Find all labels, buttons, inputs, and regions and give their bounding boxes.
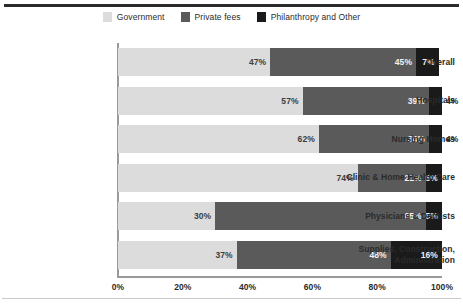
bar-segment-value-label: 37% (215, 250, 236, 260)
legend-swatch-icon (181, 12, 190, 22)
top-divider-rule (4, 4, 459, 7)
legend-item[interactable]: Philanthropy and Other (257, 12, 361, 22)
x-axis-tick-label: 100% (422, 282, 462, 292)
bar-segment[interactable]: 74% (118, 164, 358, 192)
category-label-line: Nursing Homes (345, 134, 455, 145)
plot-area: 47%45%7%57%39%4%62%34%4%74%21%5%30%65%5%… (118, 43, 442, 277)
x-axis-tick-label: 40% (228, 282, 268, 292)
category-label: Hospitals (345, 95, 455, 106)
legend-item[interactable]: Government (103, 12, 165, 22)
category-label: Nursing Homes (345, 134, 455, 145)
x-axis-tick-label: 80% (357, 282, 397, 292)
x-axis-tick-label: 20% (163, 282, 203, 292)
category-label-line: Clinic & Home Health Care (345, 172, 455, 183)
legend-swatch-icon (103, 12, 112, 22)
x-axis-tick-label: 0% (98, 282, 138, 292)
bar-segment-value-label: 30% (194, 211, 215, 221)
bar-segment-value-label: 57% (281, 96, 302, 106)
category-label-line: Hospitals (345, 95, 455, 106)
category-label: Physicians & Dentists (345, 211, 455, 222)
legend-item[interactable]: Private fees (181, 12, 241, 22)
bottom-divider-rule (2, 298, 461, 299)
bar-segment[interactable]: 37% (118, 241, 237, 269)
legend-item-label: Private fees (195, 12, 241, 22)
category-label-line: Physicians & Dentists (345, 211, 455, 222)
stacked-bar-chart: GovernmentPrivate feesPhilanthropy and O… (0, 0, 463, 304)
bar-segment[interactable]: 47% (118, 48, 270, 76)
legend-item-label: Government (117, 12, 165, 22)
bar-segment[interactable]: 30% (118, 202, 215, 230)
x-axis-tick-label: 60% (292, 282, 332, 292)
bar-segment-value-label: 47% (249, 57, 270, 67)
category-label: Overall (345, 57, 455, 68)
bar-segment-value-label: 62% (298, 134, 319, 144)
chart-legend: GovernmentPrivate feesPhilanthropy and O… (0, 10, 463, 24)
x-axis-line (117, 276, 442, 278)
category-label: Supplies, Construction,Administration (345, 244, 455, 265)
legend-swatch-icon (257, 12, 266, 22)
category-label-line: Administration (345, 255, 455, 266)
legend-item-label: Philanthropy and Other (271, 12, 361, 22)
category-label-line: Supplies, Construction, (345, 244, 455, 255)
bar-segment[interactable]: 62% (118, 125, 319, 153)
bar-segment[interactable]: 57% (118, 87, 303, 115)
category-label-line: Overall (345, 57, 455, 68)
category-label: Clinic & Home Health Care (345, 172, 455, 183)
